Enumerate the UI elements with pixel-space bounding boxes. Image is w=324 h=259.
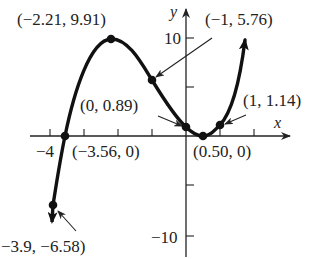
point-1 — [216, 121, 225, 130]
label-point-neg3.9: −3.9, −6.58) — [1, 237, 85, 256]
label-root-neg3.56: (−3.56, 0) — [72, 142, 140, 161]
point-root-neg3.56 — [61, 132, 70, 141]
x-axis-ticks — [50, 129, 254, 136]
label-point-neg1: (−1, 5.76) — [205, 10, 273, 29]
point-max — [107, 35, 116, 44]
point-neg3.9 — [49, 201, 58, 210]
point-yint — [182, 123, 191, 132]
label-point-1: (1, 1.14) — [243, 91, 301, 110]
label-root-0.5: (0.50, 0) — [193, 142, 251, 161]
y-tick-label-neg10: −10 — [151, 228, 178, 247]
label-y-intercept: (0, 0.89) — [80, 96, 138, 115]
y-axis-ticks — [186, 38, 194, 236]
label-relative-max: (−2.21, 9.91) — [17, 10, 106, 29]
y-axis-label: y — [168, 3, 178, 21]
point-neg1 — [148, 76, 157, 85]
cubic-function-graph: x −4 y 10 −10 (−2.21, 9.91) (−1, 5. — [0, 0, 324, 259]
data-points — [49, 35, 225, 210]
x-axis-label: x — [273, 114, 281, 131]
x-tick-label-neg4: −4 — [36, 142, 55, 161]
point-root-0.5 — [199, 132, 208, 141]
cubic-curve — [53, 39, 245, 205]
y-tick-label-10: 10 — [164, 29, 181, 48]
